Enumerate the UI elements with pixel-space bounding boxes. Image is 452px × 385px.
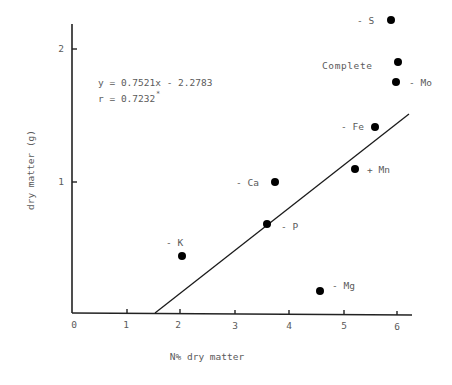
y-tick-label: 1: [58, 176, 64, 187]
label-mg: - Mg: [332, 280, 355, 291]
point-fe: [371, 123, 379, 131]
label-complete: Complete: [322, 60, 373, 71]
label-k: - K: [166, 237, 183, 248]
label-mn: + Mn: [367, 164, 390, 175]
regression-line: [155, 114, 409, 313]
point-mg: [316, 287, 324, 295]
point-ca: [271, 178, 279, 186]
point-labels: - S Complete - Mo - Fe + Mn - Ca - P - K…: [166, 15, 432, 291]
x-tick-label: 3: [232, 320, 238, 331]
label-fe: - Fe: [341, 121, 364, 132]
point-s: [387, 16, 395, 24]
x-axis: [72, 313, 412, 315]
point-k: [178, 252, 186, 260]
x-tick-label: 4: [286, 320, 292, 331]
scatter-chart: 0 1 2 3 4 5 6 1 2 N% dry matter dry matt…: [0, 0, 452, 385]
significance-mark: *: [156, 90, 160, 98]
correlation-coefficient: r = 0.7232: [98, 93, 155, 104]
y-axis-title: dry matter (g): [25, 130, 36, 210]
x-axis-title: N% dry matter: [170, 351, 245, 362]
x-tick-label: 6: [394, 321, 400, 332]
label-ca: - Ca: [236, 177, 259, 188]
point-mn: [351, 165, 359, 173]
data-points: [178, 16, 402, 295]
point-mo: [392, 78, 400, 86]
x-tick-label: 0: [71, 319, 77, 330]
y-tick-labels: 1 2: [58, 43, 64, 187]
x-tick-label: 1: [123, 319, 129, 330]
y-tick-label: 2: [58, 43, 64, 54]
label-p: - P: [281, 221, 298, 232]
x-tick-label: 5: [341, 320, 347, 331]
x-tick-labels: 0 1 2 3 4 5 6: [71, 319, 400, 332]
label-mo: - Mo: [409, 77, 432, 88]
regression-equation: y = 0.7521x - 2.2783: [98, 77, 212, 88]
label-s: - S: [357, 15, 374, 26]
x-tick-label: 2: [175, 319, 181, 330]
point-p: [263, 220, 271, 228]
point-complete: [394, 58, 402, 66]
